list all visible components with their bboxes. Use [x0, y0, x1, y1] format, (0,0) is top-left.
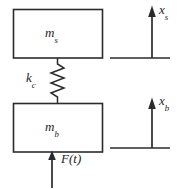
spring-constant-label-subscript: c [32, 80, 36, 90]
lower-mass-label: mb [45, 120, 59, 133]
displacement-xs-label: xs [159, 3, 168, 16]
upper-mass-box [14, 10, 103, 59]
xb-arrow-head [148, 98, 156, 110]
upper-mass-label-subscript: s [54, 35, 57, 45]
force-arrow [48, 151, 56, 189]
displacement-xb-label-base: x [159, 93, 165, 108]
diagram-canvas [0, 0, 184, 188]
displacement-xs-label-subscript: s [165, 12, 168, 22]
spring-constant-label-base: k [26, 70, 32, 85]
mass-spring-diagram: ms mb kc xs xb F(t) [0, 0, 184, 188]
lower-mass-label-subscript: b [54, 129, 58, 139]
displacement-xb-label-subscript: b [165, 103, 169, 113]
upper-mass-label-base: m [45, 25, 54, 40]
spring-coil-path [51, 58, 64, 103]
xs-arrow-head [148, 6, 156, 18]
upper-mass-label: ms [45, 26, 58, 39]
spring-element [51, 58, 64, 103]
force-label: F(t) [61, 152, 81, 165]
spring-constant-label: kc [26, 71, 36, 84]
displacement-xs-label-base: x [159, 2, 165, 17]
lower-mass-label-base: m [45, 119, 54, 134]
displacement-xb-label: xb [159, 94, 169, 107]
